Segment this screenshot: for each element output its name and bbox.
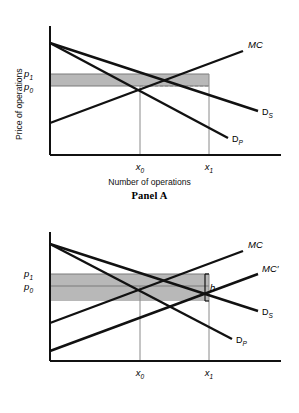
curve-label-dp: DP: [236, 335, 248, 347]
quantity-tick-x1: x1: [204, 161, 214, 174]
y-axis-title-a: Price of operations: [14, 68, 24, 140]
panel-a-caption: Panel A: [0, 190, 299, 201]
curve-label-dp: DP: [232, 134, 244, 146]
price-tick-p1: p1: [23, 68, 33, 81]
annotation-h: h: [210, 282, 215, 293]
curve-label-mc-prime: MC′: [262, 263, 280, 274]
panel-b: h MC MC′ DS DP p1 p0 x0 x1 Price of oper…: [0, 206, 299, 413]
economics-figure: MC DS DP p1 p0 x0 x1 Price of operations…: [0, 0, 299, 413]
curve-label-ds: DS: [262, 107, 274, 119]
curve-label-mc: MC: [248, 39, 263, 50]
price-tick-p0: p0: [23, 281, 33, 294]
curve-mc: [50, 51, 243, 123]
curve-label-mc: MC: [248, 239, 263, 250]
panel-a-plot: MC DS DP p1 p0 x0 x1: [0, 0, 299, 207]
price-tick-p1: p1: [23, 268, 33, 281]
quantity-tick-x1: x1: [204, 367, 214, 380]
x-axis-title-a: Number of operations: [0, 177, 299, 187]
quantity-tick-x0: x0: [135, 367, 145, 380]
quantity-tick-x0: x0: [135, 161, 145, 174]
price-tick-p0: p0: [23, 81, 33, 94]
curve-dp: [50, 43, 228, 138]
curve-label-ds: DS: [262, 307, 274, 319]
panel-a: MC DS DP p1 p0 x0 x1 Price of operations…: [0, 0, 299, 207]
panel-b-plot: h MC MC′ DS DP p1 p0 x0 x1: [0, 206, 299, 413]
